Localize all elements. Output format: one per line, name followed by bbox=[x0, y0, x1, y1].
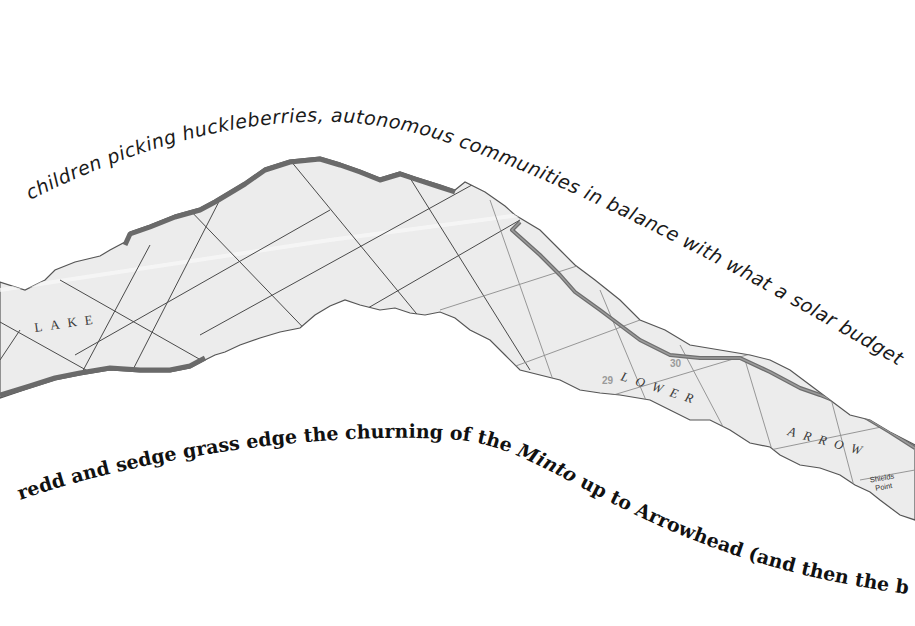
poem-map-collage: LAKE LOWER ARROW 29 30 Shields Point chi… bbox=[0, 0, 915, 626]
poem-bottom-river-name: Minto bbox=[513, 438, 581, 486]
poem-bottom-part-1: redd and sedge grass edge the churning o… bbox=[14, 420, 522, 504]
grid-number-29: 29 bbox=[602, 375, 614, 386]
grid-number-30: 30 bbox=[670, 358, 682, 369]
